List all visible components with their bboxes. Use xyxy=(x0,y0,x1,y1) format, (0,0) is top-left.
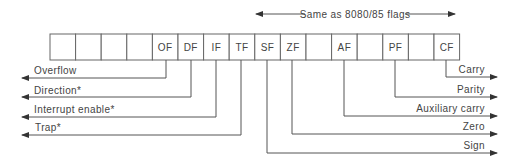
zero-label: Zero xyxy=(463,121,485,132)
cell-box xyxy=(357,34,383,60)
flag-cell-pf: PF xyxy=(383,34,409,60)
cell-box xyxy=(408,34,434,60)
flag-cell-tf: TF xyxy=(229,34,255,60)
interrupt-enable-label: Interrupt enable* xyxy=(34,104,115,115)
reserved-cell xyxy=(306,34,332,60)
cell-label: ZF xyxy=(287,42,300,53)
flag-cell-of: OF xyxy=(152,34,178,60)
cell-label: DF xyxy=(184,42,198,53)
overflow-label: Overflow xyxy=(34,65,77,76)
direction-label: Direction* xyxy=(34,85,81,96)
cell-label: IF xyxy=(211,42,221,53)
cell-label: CF xyxy=(440,42,454,53)
carry-label: Carry xyxy=(459,64,485,75)
flag-cell-if: IF xyxy=(204,34,230,60)
bracket-8080-flags: Same as 8080/85 flags xyxy=(256,9,455,20)
cell-box xyxy=(101,34,127,60)
reserved-cell xyxy=(101,34,127,60)
cell-box xyxy=(50,34,76,60)
cell-box xyxy=(76,34,102,60)
left-flag-leaders: Overflow Direction* Interrupt enable* Tr… xyxy=(22,60,241,135)
trap-label: Trap* xyxy=(35,122,61,133)
flag-cell-sf: SF xyxy=(255,34,281,60)
cell-label: SF xyxy=(261,42,275,53)
reserved-cell xyxy=(76,34,102,60)
right-flag-leaders: Carry Parity Auxiliary carry Zero Sign xyxy=(267,60,497,153)
reserved-cell xyxy=(357,34,383,60)
cell-label: OF xyxy=(158,42,173,53)
reserved-cell xyxy=(50,34,76,60)
sign-label: Sign xyxy=(463,140,485,151)
cell-label: AF xyxy=(338,42,352,53)
register-cells: OFDFIFTFSFZFAFPFCF xyxy=(50,34,460,60)
reserved-cell xyxy=(127,34,153,60)
flag-cell-df: DF xyxy=(178,34,204,60)
flags-register-diagram: Same as 8080/85 flags OFDFIFTFSFZFAFPFCF… xyxy=(0,0,515,165)
flag-cell-zf: ZF xyxy=(280,34,306,60)
bracket-label: Same as 8080/85 flags xyxy=(300,9,411,20)
parity-label: Parity xyxy=(457,84,485,95)
cell-label: TF xyxy=(235,42,248,53)
cell-box xyxy=(306,34,332,60)
cell-box xyxy=(127,34,153,60)
flag-cell-af: AF xyxy=(332,34,358,60)
flag-cell-cf: CF xyxy=(434,34,460,60)
reserved-cell xyxy=(408,34,434,60)
auxiliary-carry-label: Auxiliary carry xyxy=(416,103,485,114)
cell-label: PF xyxy=(389,42,403,53)
